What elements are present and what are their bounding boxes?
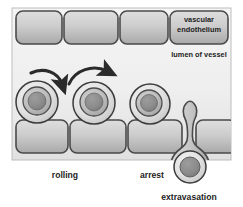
label-vascular-endothelium-line1: vascular (184, 15, 214, 24)
leukocyte-nucleus (141, 95, 158, 112)
leukocyte-rolling-2 (73, 82, 115, 124)
leukocyte-nucleus (85, 93, 103, 111)
endothelial-cell (16, 120, 68, 153)
leukocyte-arrest (130, 84, 170, 124)
endothelium-row-bottom (16, 120, 236, 153)
endothelial-cell (196, 120, 236, 153)
endothelial-cell (64, 11, 118, 44)
leukocyte-nucleus (180, 157, 200, 177)
extravasation-diagram: vascular endothelium lumen of vessel rol… (0, 0, 243, 207)
leukocyte-rolling-1 (16, 81, 58, 123)
label-extravasation: extravasation (161, 192, 216, 202)
endothelial-cell (128, 120, 182, 153)
figure-root: vascular endothelium lumen of vessel rol… (0, 0, 243, 207)
leukocyte-extravasated (174, 151, 206, 183)
endothelial-cell (16, 11, 62, 44)
label-lumen-of-vessel: lumen of vessel (171, 50, 226, 59)
label-vascular-endothelium-line2: endothelium (177, 25, 221, 34)
leukocyte-nucleus (28, 92, 46, 110)
endothelial-cell (120, 11, 168, 44)
label-arrest: arrest (140, 170, 164, 180)
endothelial-cell (70, 120, 126, 153)
label-rolling: rolling (52, 170, 78, 180)
